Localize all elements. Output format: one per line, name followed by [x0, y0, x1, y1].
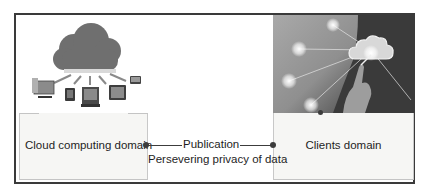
cloud-computing-domain-label: Cloud computing domain	[25, 139, 152, 151]
cloud-devices-icon	[26, 19, 146, 114]
box-corner-right	[128, 113, 148, 114]
clients-domain-photo	[273, 15, 413, 113]
clients-domain-label: Clients domain	[274, 139, 413, 151]
connector-dot-left	[143, 142, 149, 148]
cloud-computing-domain-box: Cloud computing domain	[19, 113, 148, 180]
hand-cloud-network-icon	[273, 15, 413, 113]
privacy-label: Persevering privacy of data	[148, 153, 287, 165]
image-anchor-dot	[318, 110, 323, 115]
connector-dot-right	[270, 142, 276, 148]
cloud-computing-illustration	[26, 19, 146, 114]
box-corner-left	[19, 113, 39, 114]
publication-label: Publication	[182, 138, 240, 150]
diagram-frame: Cloud computing domain	[14, 13, 415, 184]
clients-domain-box: Clients domain	[273, 113, 414, 180]
